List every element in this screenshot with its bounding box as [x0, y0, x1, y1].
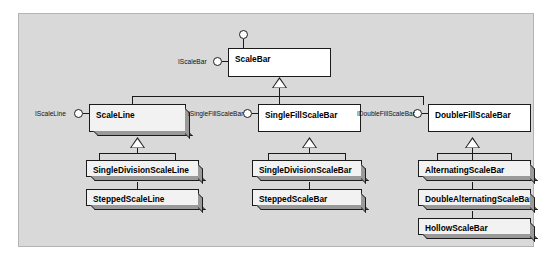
inheritance-bus-root: [132, 96, 424, 97]
class-name-scalebar: ScaleBar: [229, 49, 330, 64]
inheritance-drop-doublefill: [423, 96, 424, 105]
interface-stem-idoublefill: [422, 113, 428, 114]
class-name-doublefillscalebar: DoubleFillScaleBar: [429, 105, 530, 120]
diagram-canvas: ScaleBar IScaleBar ScaleLine IScaleLine …: [0, 0, 550, 272]
interface-stem-top: [243, 39, 244, 48]
inheritance-bus-scaleline: [99, 153, 176, 154]
interface-ball-top: [239, 30, 248, 39]
interface-ball-isinglefill: [243, 109, 252, 118]
class-name-hollowscalebar: HollowScaleBar: [419, 219, 530, 233]
class-box-hollowscalebar[interactable]: HollowScaleBar: [418, 218, 531, 235]
class-box-steppedscalebar[interactable]: SteppedScaleBar: [252, 189, 362, 206]
class-name-singledivisionscaleline: SingleDivisionScaleLine: [87, 161, 198, 175]
class-box-singlefillscalebar[interactable]: SingleFillScaleBar: [258, 104, 361, 132]
class-name-scaleline: ScaleLine: [90, 105, 185, 120]
class-name-doublealternatingscalebar: DoubleAlternatingScaleBar: [419, 190, 530, 204]
interface-label-iscaleline: IScaleLine: [35, 110, 66, 118]
class-name-steppedscalebar: SteppedScaleBar: [253, 190, 361, 204]
inheritance-bus-singlefill: [268, 153, 346, 154]
interface-stem-isinglefill: [252, 113, 258, 114]
class-box-doublealternatingscalebar[interactable]: DoubleAlternatingScaleBar: [418, 189, 531, 206]
class-box-alternatingscalebar[interactable]: AlternatingScaleBar: [418, 160, 531, 177]
interface-label-idoublefill: IDoubleFillScaleBar: [357, 110, 415, 118]
class-box-singledivisionscalebar[interactable]: SingleDivisionScaleBar: [252, 160, 362, 177]
class-name-steppedscaleline: SteppedScaleLine: [87, 190, 198, 204]
class-name-alternatingscalebar: AlternatingScaleBar: [419, 161, 530, 175]
class-box-steppedscaleline[interactable]: SteppedScaleLine: [86, 189, 199, 206]
interface-stem-iscalebar: [222, 61, 228, 62]
interface-stem-iscaleline: [83, 113, 89, 114]
class-box-doublefillscalebar[interactable]: DoubleFillScaleBar: [428, 104, 531, 132]
class-box-scaleline[interactable]: ScaleLine: [89, 104, 186, 132]
interface-ball-iscaleline: [74, 109, 83, 118]
interface-label-iscalebar: IScaleBar: [178, 58, 207, 66]
class-box-scalebar[interactable]: ScaleBar: [228, 48, 331, 77]
inheritance-bus-doublefill: [437, 153, 512, 154]
interface-label-isinglefill: ISingleFillScaleBar: [188, 110, 243, 118]
class-box-singledivisionscaleline[interactable]: SingleDivisionScaleLine: [86, 160, 199, 177]
class-name-singlefillscalebar: SingleFillScaleBar: [259, 105, 360, 120]
class-name-singledivisionscalebar: SingleDivisionScaleBar: [253, 161, 361, 175]
interface-ball-iscalebar: [213, 57, 222, 66]
